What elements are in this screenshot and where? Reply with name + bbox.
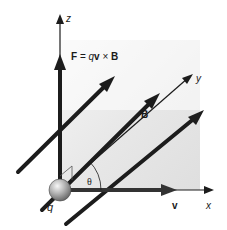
equals-sign: = xyxy=(77,51,88,62)
x-axis-label: x xyxy=(205,200,212,211)
arrowhead-icon xyxy=(56,14,64,24)
angle-label: θ xyxy=(87,176,92,187)
cross-symbol: × xyxy=(100,51,111,62)
field-symbol: B xyxy=(111,51,118,62)
z-axis-label: z xyxy=(65,13,71,24)
field-label: B xyxy=(141,109,148,120)
y-axis-label: y xyxy=(195,73,202,84)
force-equation: F = qv × B xyxy=(71,51,118,62)
arrowhead-icon xyxy=(204,186,214,194)
charge-label: q xyxy=(47,201,54,213)
velocity-label: v xyxy=(172,200,178,211)
charge-sphere xyxy=(49,179,71,201)
force-diagram: z y x F = qv × B B B v θ q xyxy=(0,0,227,230)
